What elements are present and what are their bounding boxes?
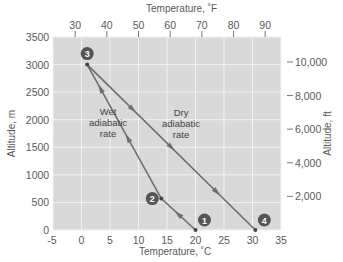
y2-tick-label: 10,000	[295, 56, 327, 68]
data-point	[194, 228, 198, 232]
point-badge-label: 3	[85, 49, 90, 59]
dry-label-line2: adiabatic	[162, 118, 200, 129]
data-point	[159, 197, 163, 201]
x-tick-label: 5	[107, 234, 113, 246]
bottom-axis-title: Temperature, ˚C	[139, 246, 211, 257]
x2-tick-label: 30	[69, 19, 81, 31]
y-tick-label: 2500	[26, 86, 49, 98]
y-tick-label: 0	[43, 224, 49, 236]
x2-tick-label: 90	[259, 19, 271, 31]
wet-label-line2: adiabatic	[89, 117, 127, 128]
x-tick-label: 10	[133, 234, 145, 246]
y-tick-label: 3000	[26, 59, 49, 71]
x2-tick-label: 40	[101, 19, 113, 31]
y-tick-label: 3500	[26, 31, 49, 43]
x-tick-label: 30	[247, 234, 259, 246]
x-tick-label: 25	[218, 234, 230, 246]
x-tick-label: 0	[79, 234, 85, 246]
wet-label-line3: rate	[89, 128, 127, 139]
x-tick-label: 15	[161, 234, 173, 246]
x2-tick-label: 80	[228, 19, 240, 31]
y2-tick-label: 8,000	[295, 90, 321, 102]
x2-tick-label: 50	[133, 19, 145, 31]
top-axis-title: Temperature, ˚F	[146, 3, 217, 14]
point-badge-label: 2	[150, 194, 155, 204]
point-badge-label: 4	[262, 216, 267, 226]
x2-tick-label: 60	[164, 19, 176, 31]
y2-tick-label: 2,000	[295, 190, 321, 202]
data-point	[85, 63, 89, 67]
y-tick-label: 2000	[26, 114, 49, 126]
x-tick-label: 35	[275, 234, 287, 246]
y2-tick-label: 4,000	[295, 157, 321, 169]
point-badge-label: 1	[202, 216, 207, 226]
y-tick-label: 1500	[26, 141, 49, 153]
left-axis-title: Altitude, m	[6, 110, 17, 157]
dry-label-line3: rate	[162, 129, 200, 140]
dry-adiabatic-label: Dry adiabatic rate	[162, 107, 200, 140]
dry-label-line1: Dry	[162, 107, 200, 118]
wet-label-line1: Wet	[89, 106, 127, 117]
y-tick-label: 1000	[26, 169, 49, 181]
data-point	[253, 228, 257, 232]
right-axis-title: Altitude, ft	[322, 111, 333, 155]
x2-tick-label: 70	[196, 19, 208, 31]
x-tick-label: 20	[190, 234, 202, 246]
wet-adiabatic-label: Wet adiabatic rate	[89, 106, 127, 139]
y-tick-label: 500	[32, 196, 50, 208]
y2-tick-label: 6,000	[295, 123, 321, 135]
